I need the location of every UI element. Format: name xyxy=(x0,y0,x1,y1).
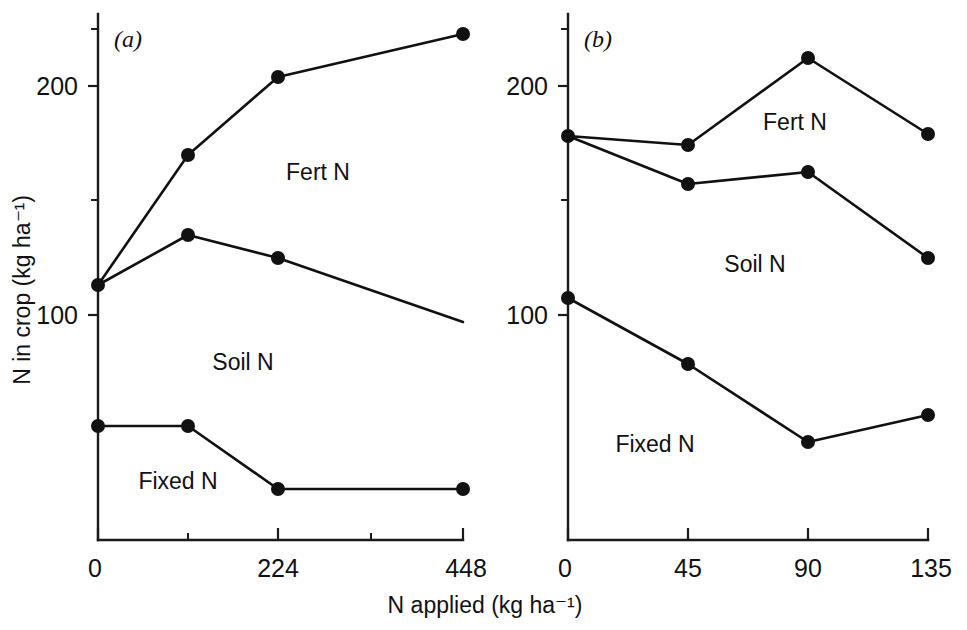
panel-a-xtick-label-0: 0 xyxy=(88,554,102,582)
panel-b-series-soil-n xyxy=(568,136,928,258)
panel-b-xtick-label-45: 45 xyxy=(674,554,702,582)
panel-a-ytick-label-200: 200 xyxy=(36,72,78,100)
panel-a-region-label-fixed-n: Fixed N xyxy=(138,468,217,494)
panel-b-region-label-fixed-n: Fixed N xyxy=(615,431,694,457)
panel-b-point-fert-n xyxy=(921,127,935,141)
panel-a-region-label-fert-n: Fert N xyxy=(286,159,350,185)
figure-container: 200 100 0 224 448 (a) Fer xyxy=(0,0,967,630)
panel-a-point-soil-n xyxy=(181,228,195,242)
panel-b-point-soil-n xyxy=(801,165,815,179)
panel-b-point-fixed-n xyxy=(681,357,695,371)
panel-a-point-fixed-n xyxy=(456,482,470,496)
panel-a-point-soil-n xyxy=(271,251,285,265)
panel-b-xtick-label-90: 90 xyxy=(794,554,822,582)
panel-a-point-fixed-n xyxy=(91,419,105,433)
panel-a-series-soil-n xyxy=(98,235,463,322)
panel-a-point-fert-n xyxy=(456,27,470,41)
panel-b-point-soil-n xyxy=(921,251,935,265)
panel-a: 200 100 0 224 448 (a) Fer xyxy=(36,14,487,582)
panel-a-xtick-label-448: 448 xyxy=(445,554,487,582)
panel-a-point-fert-n xyxy=(271,70,285,84)
y-axis-title: N in crop (kg ha⁻¹) xyxy=(9,195,35,385)
panel-b-ytick-label-100: 100 xyxy=(506,301,548,329)
panel-a-point-fert-n xyxy=(181,148,195,162)
panel-b-ytick-label-200: 200 xyxy=(506,72,548,100)
panel-a-region-label-soil-n: Soil N xyxy=(212,349,273,375)
panel-b-point-fixed-n xyxy=(921,408,935,422)
figure-svg: 200 100 0 224 448 (a) Fer xyxy=(0,0,967,630)
panel-b-series-fixed-n xyxy=(568,298,928,442)
panel-b-xtick-label-135: 135 xyxy=(910,554,952,582)
panel-b: 200 100 0 45 90 135 (b) xyxy=(506,14,952,582)
panel-a-ytick-label-100: 100 xyxy=(36,301,78,329)
panel-b-label: (b) xyxy=(584,26,612,52)
panel-b-point-fixed-n xyxy=(561,291,575,305)
panel-a-xtick-label-224: 224 xyxy=(257,554,299,582)
panel-b-point-soil-n xyxy=(681,177,695,191)
panel-a-point-fixed-n xyxy=(271,482,285,496)
panel-b-point-fixed-n xyxy=(801,435,815,449)
panel-b-region-label-fert-n: Fert N xyxy=(763,109,827,135)
x-axis-title: N applied (kg ha⁻¹) xyxy=(388,592,583,618)
panel-b-region-label-soil-n: Soil N xyxy=(724,251,785,277)
panel-b-xtick-label-0: 0 xyxy=(558,554,572,582)
panel-b-point-fert-n xyxy=(681,138,695,152)
panel-b-series-fert-n xyxy=(568,58,928,145)
panel-b-point-fert-n xyxy=(801,51,815,65)
panel-a-point-fixed-n xyxy=(181,419,195,433)
panel-a-label: (a) xyxy=(114,26,142,52)
